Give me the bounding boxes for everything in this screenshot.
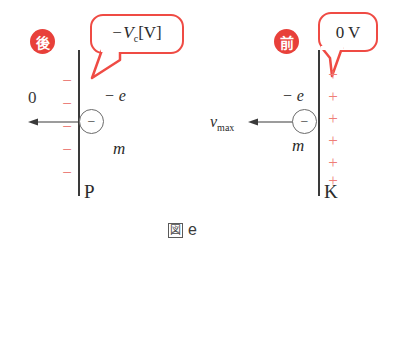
charge-minus: − xyxy=(60,141,74,158)
electron-charge-glyph: − xyxy=(301,114,309,130)
electron-charge-glyph: − xyxy=(88,114,96,130)
charge-plus: + xyxy=(326,154,340,171)
electron-particle-left: − xyxy=(79,109,104,134)
potential-zero-label: 0 xyxy=(28,89,37,106)
charge-minus: − xyxy=(60,164,74,181)
charge-plus: + xyxy=(326,172,340,189)
velocity-max-label: vmax xyxy=(210,114,234,133)
velocity-subscript: max xyxy=(217,122,234,133)
figure-caption: 図 e xyxy=(168,222,197,238)
charge-plus: + xyxy=(326,66,340,83)
figure-caption-glyph: 図 xyxy=(168,223,183,238)
electron-mass-label-right: m xyxy=(292,137,304,154)
badge-before-label: 前 xyxy=(280,32,294,52)
badge-after-label: 後 xyxy=(36,32,50,52)
callout-plate-k-voltage-text: 0 V xyxy=(336,24,361,41)
charge-plus: + xyxy=(326,88,340,105)
badge-after: 後 xyxy=(30,29,55,54)
figure-canvas: P 後 − Vc[V] − − − − − 0 − − e m K 前 0 V xyxy=(0,0,404,337)
figure-caption-text: e xyxy=(188,222,197,238)
callout-plate-p-tail xyxy=(88,48,128,82)
electron-particle-right: − xyxy=(292,109,317,134)
electron-charge-label-right: − e xyxy=(282,88,304,104)
plate-p-label: P xyxy=(84,182,95,201)
badge-before: 前 xyxy=(274,29,299,54)
callout-plate-p-voltage-text: − Vc[V] xyxy=(112,24,161,44)
charge-plus: + xyxy=(326,132,340,149)
charge-minus: − xyxy=(60,95,74,112)
electron-charge-label-left: − e xyxy=(104,88,126,104)
charge-plus: + xyxy=(326,110,340,127)
charge-minus: − xyxy=(60,72,74,89)
electron-mass-label-left: m xyxy=(113,140,125,157)
